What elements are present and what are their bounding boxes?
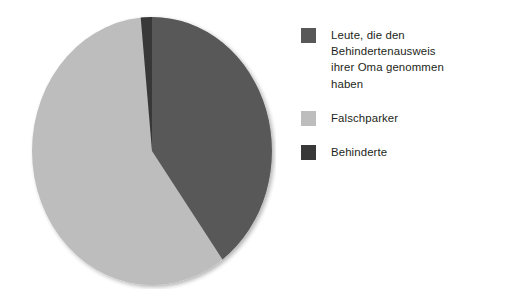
pie-chart-svg bbox=[30, 14, 276, 289]
legend-item-falschparker[interactable]: Falschparker bbox=[301, 110, 515, 126]
legend-swatch-icon bbox=[301, 111, 316, 126]
pie-chart-area bbox=[30, 14, 276, 289]
pie-chart-figure: Leute, die den Behindertenausweis ihrer … bbox=[0, 0, 523, 298]
legend-swatch-icon bbox=[301, 145, 316, 160]
legend-item-label: Falschparker bbox=[331, 110, 398, 126]
legend-swatch-icon bbox=[301, 28, 316, 43]
legend-item-leute[interactable]: Leute, die den Behindertenausweis ihrer … bbox=[301, 27, 515, 92]
legend-item-label: Behinderte bbox=[331, 144, 387, 160]
legend-item-behinderte[interactable]: Behinderte bbox=[301, 144, 515, 160]
chart-legend: Leute, die den Behindertenausweis ihrer … bbox=[301, 27, 515, 178]
legend-item-label: Leute, die den Behindertenausweis ihrer … bbox=[331, 27, 444, 92]
